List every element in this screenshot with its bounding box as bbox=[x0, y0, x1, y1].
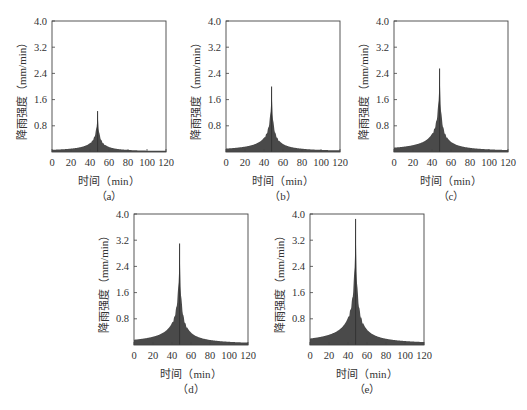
rainfall-area bbox=[226, 87, 340, 153]
chart-panel-d: 0.81.62.43.24.0020406080100120 降雨强度（mm/m… bbox=[82, 193, 257, 393]
y-tick-label: 1.6 bbox=[116, 287, 129, 298]
x-tick-label: 60 bbox=[278, 157, 289, 168]
y-tick-label: 3.2 bbox=[292, 235, 305, 246]
x-tick-label: 0 bbox=[223, 157, 228, 168]
y-tick-label: 3.2 bbox=[116, 235, 129, 246]
x-tick-label: 100 bbox=[397, 350, 413, 361]
y-tick-label: 2.4 bbox=[116, 261, 130, 272]
y-tick-label: 1.6 bbox=[292, 287, 305, 298]
x-tick-label: 60 bbox=[362, 350, 373, 361]
chart-panel-e: 0.81.62.43.24.0020406080100120 降雨强度（mm/m… bbox=[258, 193, 433, 393]
x-tick-label: 0 bbox=[391, 157, 396, 168]
x-tick-label: 20 bbox=[148, 350, 159, 361]
x-tick-label: 80 bbox=[205, 350, 216, 361]
x-tick-label: 20 bbox=[66, 157, 77, 168]
x-tick-label: 20 bbox=[324, 350, 335, 361]
plot-frame bbox=[310, 214, 424, 345]
y-tick-label: 2.4 bbox=[34, 68, 48, 79]
y-axis-label: 降雨强度（mm/min） bbox=[355, 37, 371, 140]
y-tick-label: 1.6 bbox=[34, 94, 47, 105]
x-tick-label: 0 bbox=[49, 157, 54, 168]
y-tick-label: 4.0 bbox=[34, 16, 47, 27]
x-tick-label: 80 bbox=[465, 157, 476, 168]
y-tick-label: 0.8 bbox=[116, 313, 129, 324]
plot-frame bbox=[394, 21, 508, 152]
x-tick-label: 40 bbox=[343, 350, 354, 361]
x-tick-label: 80 bbox=[297, 157, 308, 168]
x-tick-label: 80 bbox=[381, 350, 392, 361]
rainfall-area bbox=[134, 243, 248, 345]
x-tick-label: 20 bbox=[240, 157, 251, 168]
y-tick-label: 4.0 bbox=[292, 209, 305, 220]
x-axis-label: 时间（min） bbox=[52, 172, 166, 188]
x-tick-label: 60 bbox=[186, 350, 197, 361]
x-tick-label: 20 bbox=[408, 157, 419, 168]
x-tick-label: 120 bbox=[158, 157, 174, 168]
x-tick-label: 60 bbox=[104, 157, 115, 168]
y-axis-label: 降雨强度（mm/min） bbox=[13, 37, 29, 140]
y-tick-label: 4.0 bbox=[116, 209, 129, 220]
x-tick-label: 40 bbox=[167, 350, 178, 361]
x-tick-label: 0 bbox=[307, 350, 312, 361]
y-tick-label: 0.8 bbox=[34, 120, 47, 131]
chart-panel-b: 0.81.62.43.24.0020406080100120 降雨强度（mm/m… bbox=[174, 0, 349, 200]
chart-panel-c: 0.81.62.43.24.0020406080100120 降雨强度（mm/m… bbox=[342, 0, 517, 200]
y-tick-label: 0.8 bbox=[292, 313, 305, 324]
x-axis-label: 时间（min） bbox=[134, 365, 248, 381]
y-axis-label: 降雨强度（mm/min） bbox=[271, 230, 287, 333]
x-tick-label: 40 bbox=[85, 157, 96, 168]
chart-panel-a: 0.81.62.43.24.0020406080100120 降雨强度（mm/m… bbox=[0, 0, 175, 200]
subfigure-caption: （e） bbox=[310, 380, 424, 396]
rainfall-area bbox=[52, 111, 166, 152]
y-tick-label: 2.4 bbox=[376, 68, 390, 79]
y-tick-label: 4.0 bbox=[376, 16, 389, 27]
y-tick-label: 3.2 bbox=[34, 42, 47, 53]
rainfall-area bbox=[310, 219, 424, 345]
y-tick-label: 3.2 bbox=[376, 42, 389, 53]
rainfall-area bbox=[394, 68, 508, 152]
x-tick-label: 100 bbox=[481, 157, 497, 168]
y-axis-label: 降雨强度（mm/min） bbox=[187, 37, 203, 140]
x-tick-label: 120 bbox=[500, 157, 516, 168]
y-tick-label: 3.2 bbox=[208, 42, 221, 53]
x-tick-label: 40 bbox=[427, 157, 438, 168]
x-tick-label: 60 bbox=[446, 157, 457, 168]
plot-frame bbox=[134, 214, 248, 345]
x-tick-label: 100 bbox=[139, 157, 155, 168]
x-tick-label: 80 bbox=[123, 157, 134, 168]
y-tick-label: 1.6 bbox=[208, 94, 221, 105]
x-axis-label: 时间（min） bbox=[394, 172, 508, 188]
y-tick-label: 2.4 bbox=[292, 261, 306, 272]
x-tick-label: 40 bbox=[259, 157, 270, 168]
y-tick-label: 4.0 bbox=[208, 16, 221, 27]
y-tick-label: 0.8 bbox=[208, 120, 221, 131]
y-tick-label: 2.4 bbox=[208, 68, 222, 79]
x-tick-label: 120 bbox=[416, 350, 432, 361]
x-axis-label: 时间（min） bbox=[310, 365, 424, 381]
x-tick-label: 0 bbox=[131, 350, 136, 361]
y-axis-label: 降雨强度（mm/min） bbox=[95, 230, 111, 333]
y-tick-label: 0.8 bbox=[376, 120, 389, 131]
subfigure-caption: （d） bbox=[134, 380, 248, 396]
x-tick-label: 120 bbox=[240, 350, 256, 361]
plot-frame bbox=[226, 21, 340, 152]
x-tick-label: 100 bbox=[313, 157, 329, 168]
x-axis-label: 时间（min） bbox=[226, 172, 340, 188]
y-tick-label: 1.6 bbox=[376, 94, 389, 105]
x-tick-label: 100 bbox=[221, 350, 237, 361]
plot-frame bbox=[52, 21, 166, 152]
